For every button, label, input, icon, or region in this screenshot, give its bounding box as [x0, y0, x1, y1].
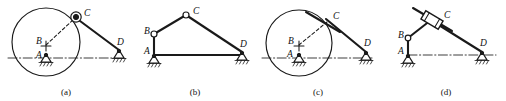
support-a-hatch-3	[155, 64, 157, 68]
label-b: B	[398, 30, 404, 40]
support-a-pin	[406, 54, 409, 57]
panel-b-drawing: B A C D (b)	[132, 0, 254, 101]
support-a-hatch-1	[293, 63, 295, 67]
label-b: B	[288, 36, 294, 46]
support-d-hatch-3	[483, 61, 485, 65]
joint-c-pin[interactable]	[73, 14, 78, 19]
label-c: C	[193, 6, 200, 16]
support-d-hatch-4	[247, 61, 249, 65]
figure-sheet: B A C D (a)	[0, 0, 506, 101]
panel-caption: (d)	[441, 87, 452, 97]
panel-caption: (a)	[61, 87, 71, 97]
support-d-hatch-1	[360, 61, 362, 65]
label-c: C	[333, 11, 340, 21]
support-a[interactable]	[147, 54, 161, 67]
support-a-hatch-4	[304, 63, 306, 67]
radius-bc	[299, 22, 327, 45]
label-a: A	[143, 46, 150, 56]
label-c: C	[444, 10, 451, 20]
support-a[interactable]	[292, 53, 306, 66]
panel-c-drawing: B A C D (c)	[254, 0, 382, 101]
support-d[interactable]	[235, 51, 249, 64]
support-a-hatch-1	[40, 63, 42, 67]
support-d-hatch-1	[476, 61, 478, 65]
link-bc	[154, 15, 186, 34]
support-a-hatch-1	[148, 64, 150, 68]
support-a[interactable]	[401, 54, 415, 67]
label-c: C	[84, 8, 91, 18]
panel-a: B A C D (a)	[0, 0, 132, 101]
label-d: D	[116, 37, 124, 47]
radius-bc	[46, 19, 74, 45]
support-a-hatch-2	[406, 64, 408, 68]
support-d-hatch-3	[243, 61, 245, 65]
label-a: A	[286, 49, 293, 59]
support-a-hatch-4	[159, 64, 161, 68]
link-cd	[186, 15, 242, 52]
support-d-hatch-3	[120, 59, 122, 63]
panel-b: B A C D (b)	[132, 0, 254, 101]
support-d-hatch-4	[371, 61, 373, 65]
support-d-hatch-1	[113, 59, 115, 63]
support-d-hatch-3	[367, 61, 369, 65]
support-d-pin	[480, 51, 483, 54]
joint-b[interactable]	[405, 35, 411, 41]
support-d-hatch-4	[487, 61, 489, 65]
support-a-hatch-3	[47, 63, 49, 67]
support-d-hatch-1	[236, 61, 238, 65]
support-a-hatch-2	[152, 64, 154, 68]
support-a-hatch-2	[297, 63, 299, 67]
support-d-hatch-2	[117, 59, 119, 63]
support-d[interactable]	[112, 49, 126, 62]
link-cd	[76, 18, 119, 50]
support-d-hatch-2	[364, 61, 366, 65]
label-a: A	[35, 50, 42, 60]
support-d[interactable]	[475, 51, 489, 64]
panel-c: B A C D (c)	[254, 0, 382, 101]
support-a-hatch-4	[413, 64, 415, 68]
panel-a-drawing: B A C D (a)	[0, 0, 132, 101]
label-d: D	[363, 38, 371, 48]
label-d: D	[239, 39, 247, 49]
panel-d-drawing: B A C D (d)	[382, 0, 506, 101]
support-d-pin	[117, 49, 120, 52]
label-b: B	[36, 36, 42, 46]
support-d-hatch-2	[480, 61, 482, 65]
support-a-pin	[297, 53, 300, 56]
panel-caption: (c)	[313, 87, 323, 97]
support-a-hatch-3	[409, 64, 411, 68]
support-a-hatch-1	[402, 64, 404, 68]
support-d-pin	[240, 51, 243, 54]
label-a: A	[397, 46, 404, 56]
support-a-pin	[44, 53, 47, 56]
support-a-hatch-4	[51, 63, 53, 67]
joint-c[interactable]	[183, 12, 189, 18]
label-d: D	[479, 38, 487, 48]
support-d-hatch-4	[124, 59, 126, 63]
support-a-hatch-3	[300, 63, 302, 67]
joint-b[interactable]	[151, 31, 157, 37]
support-a-pin	[152, 54, 155, 57]
panel-d: B A C D (d)	[382, 0, 506, 101]
support-d-hatch-2	[240, 61, 242, 65]
support-a-hatch-2	[44, 63, 46, 67]
link-cd	[434, 22, 482, 52]
support-d-pin	[364, 51, 367, 54]
label-b: B	[144, 26, 150, 36]
panel-caption: (b)	[190, 87, 201, 97]
